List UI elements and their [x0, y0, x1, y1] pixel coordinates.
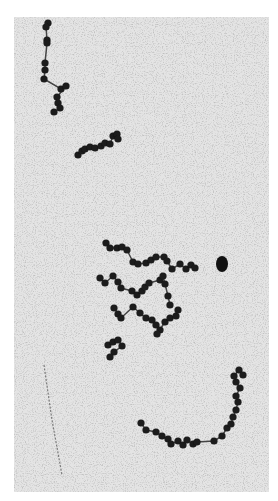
bead: [117, 284, 124, 291]
bead: [53, 93, 60, 100]
bead: [232, 392, 239, 399]
bead: [145, 279, 152, 286]
bead: [193, 438, 200, 445]
micrograph-image: [14, 17, 269, 492]
bead: [164, 292, 171, 299]
bead: [106, 244, 113, 251]
bead: [168, 265, 175, 272]
bead: [56, 104, 63, 111]
bead: [106, 140, 113, 147]
micrograph-canvas: [14, 17, 269, 492]
bead: [50, 108, 57, 115]
bead: [114, 135, 121, 142]
bead: [62, 82, 69, 89]
bead: [152, 253, 159, 260]
bead: [129, 303, 136, 310]
bead: [230, 372, 237, 379]
bead: [106, 353, 113, 360]
bead: [229, 413, 236, 420]
bead: [232, 406, 239, 413]
bead: [110, 304, 117, 311]
bead: [137, 419, 144, 426]
bead: [41, 59, 48, 66]
bead: [134, 260, 141, 267]
bead: [174, 306, 181, 313]
bead: [142, 426, 149, 433]
bead: [239, 371, 246, 378]
bead: [152, 428, 159, 435]
bead: [166, 301, 173, 308]
bead: [42, 23, 49, 30]
bead: [43, 39, 50, 46]
bead: [109, 272, 116, 279]
bead: [153, 330, 160, 337]
bead: [218, 432, 225, 439]
bead: [117, 314, 124, 321]
bead: [159, 272, 166, 279]
bead: [101, 279, 108, 286]
bead: [236, 384, 243, 391]
bead: [183, 436, 190, 443]
bead: [176, 260, 183, 267]
bead: [136, 309, 143, 316]
bead: [167, 440, 174, 447]
bead: [161, 280, 168, 287]
bead: [163, 257, 170, 264]
bead: [191, 264, 198, 271]
bead: [114, 336, 121, 343]
dark-blob: [216, 256, 228, 272]
bead: [40, 75, 47, 82]
bead: [41, 66, 48, 73]
bead: [118, 342, 125, 349]
bead: [123, 246, 130, 253]
bead: [210, 437, 217, 444]
bead: [227, 420, 234, 427]
